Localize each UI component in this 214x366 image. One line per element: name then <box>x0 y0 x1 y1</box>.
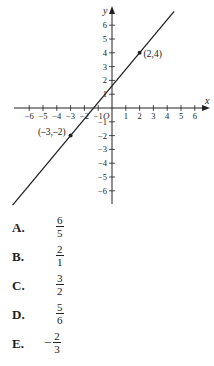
y-axis-arrow-icon <box>109 6 115 14</box>
y-axis-label: y <box>102 5 108 16</box>
x-tick-label: 5 <box>179 111 183 121</box>
choice-value: − 23 <box>44 330 61 355</box>
choice-value: 65 <box>54 214 64 239</box>
y-tick-label: 4 <box>103 48 108 58</box>
y-tick-label: 6 <box>103 20 107 30</box>
choice-letter: A. <box>12 220 25 236</box>
y-tick-label: −1 <box>98 117 107 127</box>
coordinate-graph: xyO−6−5−4−3−2−1123456−6−5−4−3−2−1123456(… <box>0 0 214 212</box>
x-axis-label: x <box>204 95 210 106</box>
x-tick-label: −5 <box>38 111 47 121</box>
data-point <box>138 51 142 55</box>
data-point <box>69 134 73 138</box>
y-tick-label: 3 <box>103 62 107 72</box>
point-label: (2,4) <box>144 49 162 60</box>
x-tick-label: 3 <box>151 111 155 121</box>
x-tick-label: 2 <box>137 111 141 121</box>
choice-d[interactable]: D. 56 <box>10 301 210 329</box>
y-tick-label: −5 <box>98 172 107 182</box>
choice-value: 32 <box>54 272 64 297</box>
y-tick-label: 5 <box>103 34 107 44</box>
y-tick-label: −3 <box>98 144 107 154</box>
choice-c[interactable]: C. 32 <box>10 272 210 300</box>
y-tick-label: 2 <box>103 75 107 85</box>
choice-letter: D. <box>12 307 25 323</box>
x-tick-label: 4 <box>165 111 170 121</box>
y-tick-label: −4 <box>98 158 108 168</box>
choice-letter: B. <box>12 249 24 265</box>
choice-e[interactable]: E. − 23 <box>10 330 210 358</box>
choice-letter: C. <box>12 278 25 294</box>
choice-a[interactable]: A. 65 <box>10 214 210 242</box>
choice-value: 21 <box>54 243 64 268</box>
y-tick-label: −2 <box>98 131 107 141</box>
x-tick-label: −3 <box>66 111 75 121</box>
choice-b[interactable]: B. 21 <box>10 243 210 271</box>
x-tick-label: −4 <box>52 111 62 121</box>
choice-letter: E. <box>12 336 24 352</box>
x-tick-label: 1 <box>124 111 128 121</box>
point-label: (–3,–2) <box>38 127 66 138</box>
choice-value: 56 <box>54 301 64 326</box>
x-tick-label: −6 <box>25 111 34 121</box>
y-tick-label: −6 <box>98 186 107 196</box>
x-tick-label: 6 <box>193 111 197 121</box>
